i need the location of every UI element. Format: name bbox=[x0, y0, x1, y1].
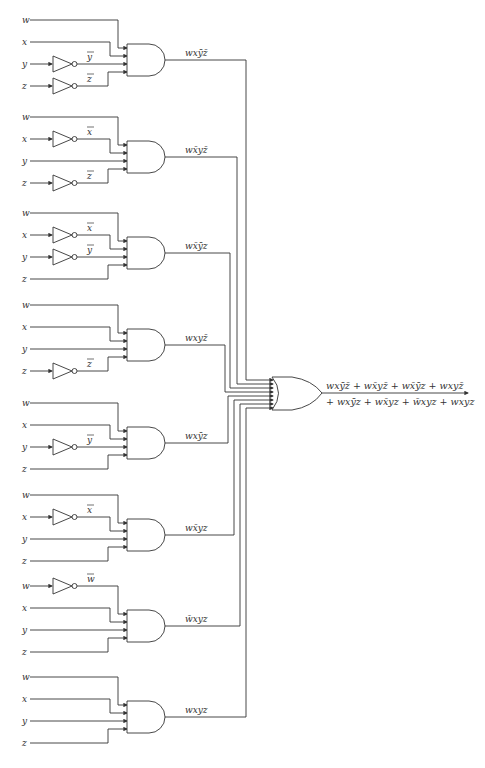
input-label-x: x bbox=[22, 134, 27, 144]
inverted-label-x: x bbox=[87, 127, 92, 137]
input-label-x: x bbox=[22, 603, 27, 613]
input-label-w: w bbox=[22, 398, 30, 408]
inverted-label-z: z bbox=[86, 359, 92, 369]
inverted-label-x: x bbox=[87, 223, 92, 233]
gate-input-wire bbox=[77, 586, 127, 614]
input-label-y: y bbox=[21, 625, 28, 635]
and-block-5: wxyyzwxȳz bbox=[21, 396, 273, 474]
gate-input-wire bbox=[30, 117, 127, 145]
gate-input-wire bbox=[77, 357, 127, 371]
and-to-or-wire bbox=[165, 345, 273, 392]
gate-input-wire bbox=[30, 20, 127, 48]
inverter-bubble bbox=[72, 137, 77, 142]
input-label-z: z bbox=[21, 647, 27, 657]
and-gate-blocks: wxyyzzwxȳz̄wxxyzzwx̄yz̄wxxyyzwx̄ȳzwxyzzw… bbox=[21, 15, 273, 748]
inverted-label-y: y bbox=[86, 245, 93, 255]
gate-input-wire bbox=[30, 547, 127, 561]
input-label-w: w bbox=[22, 581, 30, 591]
and-block-4: wxyzzwxyz̄ bbox=[21, 300, 273, 392]
input-label-y: y bbox=[21, 344, 28, 354]
input-label-x: x bbox=[22, 322, 27, 332]
input-label-w: w bbox=[22, 672, 30, 682]
not-gate bbox=[53, 78, 72, 94]
not-gate bbox=[53, 131, 72, 147]
input-label-x: x bbox=[22, 230, 27, 240]
and-to-or-wire bbox=[165, 60, 273, 380]
and-output-label: wxyz̄ bbox=[185, 333, 208, 343]
gate-input-wire bbox=[30, 327, 127, 341]
and-gate bbox=[127, 610, 165, 642]
inverter-bubble bbox=[72, 369, 77, 374]
inverted-label-z: z bbox=[86, 74, 92, 84]
and-gate bbox=[127, 701, 165, 733]
and-output-label: wx̄yz̄ bbox=[185, 145, 208, 155]
gate-input-wire bbox=[30, 677, 127, 705]
and-output-label: w̄xyz bbox=[185, 614, 208, 624]
not-gate bbox=[53, 249, 72, 265]
input-label-z: z bbox=[21, 178, 27, 188]
or-output-equation-line2: + wxȳz + wx̄yz + w̄xyz + wxyz bbox=[326, 396, 475, 407]
and-gate bbox=[127, 141, 165, 173]
inverter-bubble bbox=[72, 584, 77, 589]
and-to-or-wire bbox=[165, 404, 273, 626]
input-label-z: z bbox=[21, 366, 27, 376]
logic-circuit-diagram: wxyyzzwxȳz̄wxxyzzwx̄yz̄wxxyyzwx̄ȳzwxyzzw… bbox=[0, 0, 485, 768]
input-label-x: x bbox=[22, 694, 27, 704]
and-output-label: wxyz bbox=[185, 705, 208, 715]
and-gate bbox=[127, 44, 165, 76]
not-gate bbox=[53, 175, 72, 191]
input-label-y: y bbox=[21, 59, 28, 69]
input-label-w: w bbox=[22, 15, 30, 25]
gate-input-wire bbox=[30, 213, 127, 241]
gate-input-wire bbox=[30, 729, 127, 743]
not-gate bbox=[53, 509, 72, 525]
or-gate-group: wxȳz̄ + wx̄yz̄ + wx̄ȳz + wxyz̄ + wxȳz + … bbox=[272, 377, 475, 410]
not-gate bbox=[53, 227, 72, 243]
gate-input-wire bbox=[30, 608, 127, 622]
and-output-label: wx̄yz bbox=[185, 523, 208, 533]
and-to-or-wire bbox=[165, 157, 273, 384]
inverter-bubble bbox=[72, 181, 77, 186]
and-to-or-wire bbox=[165, 400, 273, 535]
inverted-label-y: y bbox=[86, 52, 93, 62]
input-label-x: x bbox=[22, 512, 27, 522]
or-output-equation-line1: wxȳz̄ + wx̄yz̄ + wx̄ȳz + wxyz̄ bbox=[326, 380, 464, 391]
gate-input-wire bbox=[30, 42, 127, 56]
input-label-x: x bbox=[22, 420, 27, 430]
and-output-label: wx̄ȳz bbox=[185, 241, 208, 251]
gate-input-wire bbox=[77, 139, 127, 153]
and-to-or-wire bbox=[165, 396, 273, 443]
not-gate bbox=[53, 56, 72, 72]
gate-input-wire bbox=[77, 517, 127, 531]
gate-input-wire bbox=[30, 638, 127, 652]
inverter-bubble bbox=[72, 62, 77, 67]
inverter-bubble bbox=[72, 515, 77, 520]
input-label-w: w bbox=[22, 300, 30, 310]
inverted-label-x: x bbox=[87, 505, 92, 515]
not-gate bbox=[53, 439, 72, 455]
inverted-label-y: y bbox=[86, 435, 93, 445]
and-gate bbox=[127, 329, 165, 361]
input-label-z: z bbox=[21, 81, 27, 91]
gate-input-wire bbox=[30, 495, 127, 523]
input-label-y: y bbox=[21, 252, 28, 262]
gate-input-wire bbox=[30, 699, 127, 713]
input-label-z: z bbox=[21, 464, 27, 474]
and-gate bbox=[127, 519, 165, 551]
input-label-x: x bbox=[22, 37, 27, 47]
and-to-or-wire bbox=[165, 408, 273, 717]
input-label-w: w bbox=[22, 490, 30, 500]
gate-input-wire bbox=[77, 169, 127, 183]
not-gate bbox=[53, 363, 72, 379]
gate-input-wire bbox=[77, 72, 127, 86]
inverter-bubble bbox=[72, 84, 77, 89]
gate-input-wire bbox=[77, 235, 127, 249]
and-to-or-wire bbox=[165, 253, 273, 388]
input-label-z: z bbox=[21, 274, 27, 284]
input-label-y: y bbox=[21, 716, 28, 726]
gate-input-wire bbox=[30, 305, 127, 333]
input-label-y: y bbox=[21, 156, 28, 166]
input-label-y: y bbox=[21, 442, 28, 452]
inverted-label-w: w bbox=[87, 574, 95, 584]
input-label-w: w bbox=[22, 208, 30, 218]
